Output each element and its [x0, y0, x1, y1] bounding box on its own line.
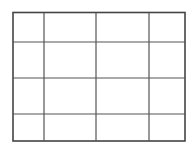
- grid-lines: [13, 13, 185, 142]
- grid-diagram: [0, 0, 194, 153]
- grid-border: [13, 13, 185, 142]
